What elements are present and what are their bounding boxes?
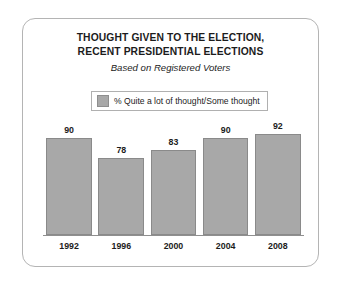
bar-rect bbox=[255, 134, 301, 235]
chart-legend: % Quite a lot of thought/Some thought bbox=[91, 91, 268, 111]
x-axis-tick-label: 1996 bbox=[98, 241, 144, 251]
legend-item-label: % Quite a lot of thought/Some thought bbox=[114, 96, 260, 106]
bar-rect bbox=[98, 158, 144, 235]
bar-value-label: 90 bbox=[64, 125, 74, 135]
chart-frame: THOUGHT GIVEN TO THE ELECTION, RECENT PR… bbox=[22, 18, 319, 267]
x-axis-tick-label: 2000 bbox=[151, 241, 197, 251]
x-axis-tick-label: 2008 bbox=[255, 241, 301, 251]
bar-rect bbox=[203, 138, 249, 235]
x-axis-line bbox=[43, 235, 304, 236]
chart-subtitle: Based on Registered Voters bbox=[23, 62, 318, 74]
bar-value-label: 92 bbox=[273, 121, 283, 131]
bar-group: 90 bbox=[46, 115, 92, 235]
bar-group: 83 bbox=[151, 115, 197, 235]
bar-value-label: 90 bbox=[221, 125, 231, 135]
x-axis-tick-label: 1992 bbox=[46, 241, 92, 251]
bar-value-label: 83 bbox=[169, 137, 179, 147]
chart-title-block: THOUGHT GIVEN TO THE ELECTION, RECENT PR… bbox=[23, 31, 318, 74]
bar-rect bbox=[151, 150, 197, 235]
legend-color-swatch bbox=[97, 95, 109, 107]
bar-group: 90 bbox=[203, 115, 249, 235]
bar-rect bbox=[46, 138, 92, 235]
bar-series: 90 78 83 90 92 bbox=[43, 115, 304, 235]
x-axis-labels: 1992 1996 2000 2004 2008 bbox=[43, 241, 304, 251]
bar-group: 78 bbox=[98, 115, 144, 235]
plot-area: 90 78 83 90 92 1992 1996 bbox=[43, 115, 304, 254]
chart-title-line-2: RECENT PRESIDENTIAL ELECTIONS bbox=[23, 45, 318, 59]
bar-group: 92 bbox=[255, 115, 301, 235]
chart-title-line-1: THOUGHT GIVEN TO THE ELECTION, bbox=[23, 31, 318, 45]
bar-value-label: 78 bbox=[116, 145, 126, 155]
x-axis-tick-label: 2004 bbox=[203, 241, 249, 251]
